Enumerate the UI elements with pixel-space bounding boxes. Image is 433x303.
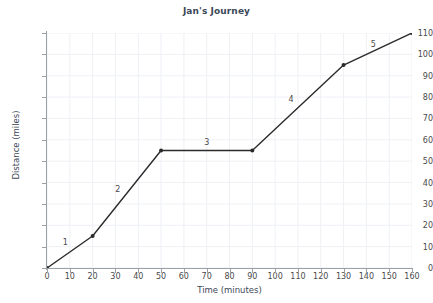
x-axis-tick-label: 70 [195,272,219,281]
x-axis-tick-label: 20 [81,272,105,281]
x-axis-tick-mark [389,269,390,273]
y-axis-tick-mark [42,76,46,77]
y-axis-tick-mark [42,183,46,184]
y-axis-tick-mark [42,140,46,141]
x-axis-tick-label: 130 [332,272,356,281]
x-axis-tick-label: 160 [400,272,424,281]
data-point-marker [342,63,346,67]
x-axis-tick-label: 40 [126,272,150,281]
y-axis-tick-label: 10 [397,242,433,251]
y-axis-tick-label: 50 [397,157,433,166]
x-axis-tick-mark [230,269,231,273]
y-axis-title: Distance (miles) [11,85,21,205]
segment-label: 1 [63,238,68,247]
x-axis-tick-mark [138,269,139,273]
y-axis-tick-label: 30 [397,199,433,208]
x-axis-tick-label: 150 [377,272,401,281]
data-point-marker [159,149,163,153]
segment-label: 3 [204,137,209,146]
segment-label: 5 [371,39,376,48]
x-axis-tick-mark [275,269,276,273]
y-axis-tick-label: 80 [397,93,433,102]
journey-polyline [47,33,412,268]
data-point-marker [91,234,95,238]
x-axis-tick-label: 80 [218,272,242,281]
x-axis-tick-mark [115,269,116,273]
x-axis-tick-mark [184,269,185,273]
x-axis-tick-label: 0 [35,272,59,281]
journey-line-series [47,33,412,268]
y-axis-tick-label: 60 [397,135,433,144]
plot-area [47,33,412,268]
x-axis-tick-mark [47,269,48,273]
x-axis-title: Time (minutes) [47,285,412,295]
x-axis-tick-label: 120 [309,272,333,281]
x-axis-tick-mark [252,269,253,273]
y-axis-tick-mark [42,225,46,226]
x-axis-tick-label: 110 [286,272,310,281]
y-axis-tick-mark [42,268,46,269]
chart-title: Jan's Journey [0,6,433,16]
x-axis-tick-label: 90 [240,272,264,281]
y-axis-tick-mark [42,204,46,205]
x-axis-tick-label: 50 [149,272,173,281]
x-axis-tick-label: 30 [103,272,127,281]
y-axis-tick-mark [42,118,46,119]
y-axis-tick-label: 110 [397,29,433,38]
y-axis-tick-label: 90 [397,71,433,80]
y-axis-tick-mark [42,97,46,98]
segment-label: 2 [115,184,120,193]
x-axis-tick-mark [344,269,345,273]
x-axis-tick-mark [70,269,71,273]
x-axis-tick-mark [207,269,208,273]
y-axis-tick-mark [42,161,46,162]
y-axis-tick-mark [42,33,46,34]
x-axis-tick-label: 10 [58,272,82,281]
chart-container: Jan's Journey Time (minutes) Distance (m… [0,0,433,303]
y-axis-tick-mark [42,54,46,55]
x-axis-tick-mark [161,269,162,273]
data-point-marker [250,149,254,153]
x-axis-tick-mark [412,269,413,273]
x-axis-tick-mark [321,269,322,273]
y-axis-tick-label: 100 [397,50,433,59]
x-axis-tick-label: 140 [354,272,378,281]
segment-label: 4 [289,95,294,104]
x-axis-tick-label: 100 [263,272,287,281]
x-axis-tick-mark [93,269,94,273]
y-axis-tick-label: 70 [397,114,433,123]
y-axis-tick-label: 20 [397,221,433,230]
y-axis-tick-mark [42,247,46,248]
y-axis-tick-label: 40 [397,178,433,187]
x-axis-tick-label: 60 [172,272,196,281]
x-axis-tick-mark [366,269,367,273]
x-axis-tick-mark [298,269,299,273]
